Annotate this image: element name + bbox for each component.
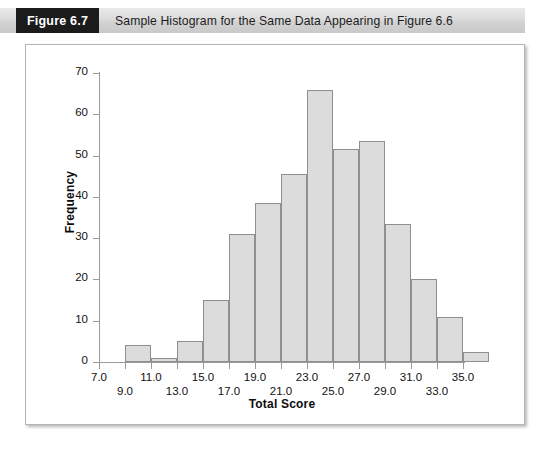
histogram-bar — [411, 279, 437, 362]
histogram-bar — [125, 345, 151, 362]
x-axis-tick-label: 21.0 — [261, 385, 301, 397]
x-axis-tick — [463, 363, 464, 369]
x-axis-tick — [281, 363, 282, 369]
y-axis-tick — [93, 238, 99, 239]
x-axis-tick — [177, 363, 178, 369]
x-axis-tick-label: 7.0 — [79, 371, 119, 383]
y-axis-line — [99, 72, 100, 363]
histogram-bar — [385, 224, 411, 362]
y-axis-tick-label-text: 70 — [52, 65, 88, 77]
figure-header-bar: Figure 6.7 Sample Histogram for the Same… — [0, 8, 525, 33]
y-axis-title: Frequency — [63, 142, 77, 262]
histogram-bar — [177, 341, 203, 362]
x-axis-tick-label: 9.0 — [105, 385, 145, 397]
x-axis-tick-label: 11.0 — [131, 371, 171, 383]
x-axis-tick — [203, 363, 204, 369]
y-axis-tick — [93, 156, 99, 157]
x-axis-tick — [307, 363, 308, 369]
histogram-bar — [333, 149, 359, 362]
x-axis-tick — [255, 363, 256, 369]
x-axis-tick — [385, 363, 386, 369]
x-axis-tick-label: 35.0 — [443, 371, 483, 383]
x-axis-tick — [411, 363, 412, 369]
histogram-bar — [151, 358, 177, 362]
x-axis-tick-label: 27.0 — [339, 371, 379, 383]
x-axis-tick-label: 19.0 — [235, 371, 275, 383]
x-axis-tick — [99, 363, 100, 369]
y-axis-tick — [93, 197, 99, 198]
histogram-bar — [281, 174, 307, 362]
x-axis-tick — [333, 363, 334, 369]
y-axis-tick-label-text: 60 — [52, 106, 88, 118]
plot-area: 010203040506070 7.09.011.013.015.017.019… — [26, 45, 524, 424]
y-axis-tick — [93, 114, 99, 115]
y-axis-tick — [93, 321, 99, 322]
x-axis-tick — [151, 363, 152, 369]
y-axis-tick-label-text: 0 — [52, 354, 88, 366]
x-axis-tick — [229, 363, 230, 369]
histogram-bar — [229, 234, 255, 362]
x-axis-tick — [125, 363, 126, 369]
x-axis-tick — [437, 363, 438, 369]
histogram-bar — [359, 141, 385, 362]
histogram-bar — [463, 352, 489, 362]
chart-frame: 010203040506070 7.09.011.013.015.017.019… — [25, 44, 525, 425]
x-axis-tick-label: 17.0 — [209, 385, 249, 397]
y-axis-tick-label-text: 10 — [52, 313, 88, 325]
x-axis-tick-label: 33.0 — [417, 385, 457, 397]
histogram-bar — [437, 317, 463, 362]
x-axis-title: Total Score — [99, 397, 465, 411]
x-axis-tick — [359, 363, 360, 369]
figure-number-badge: Figure 6.7 — [16, 8, 99, 33]
y-axis-tick — [93, 279, 99, 280]
x-axis-tick-label: 23.0 — [287, 371, 327, 383]
figure-caption: Sample Histogram for the Same Data Appea… — [99, 8, 453, 33]
histogram-bar — [255, 203, 281, 362]
x-axis-tick-label: 13.0 — [157, 385, 197, 397]
x-axis-tick-label: 29.0 — [365, 385, 405, 397]
histogram-bar — [203, 300, 229, 362]
x-axis-tick-label: 31.0 — [391, 371, 431, 383]
y-axis-tick-label-text: 20 — [52, 271, 88, 283]
x-axis-tick-label: 25.0 — [313, 385, 353, 397]
histogram-bar — [307, 90, 333, 362]
y-axis-tick — [93, 73, 99, 74]
x-axis-tick-label: 15.0 — [183, 371, 223, 383]
